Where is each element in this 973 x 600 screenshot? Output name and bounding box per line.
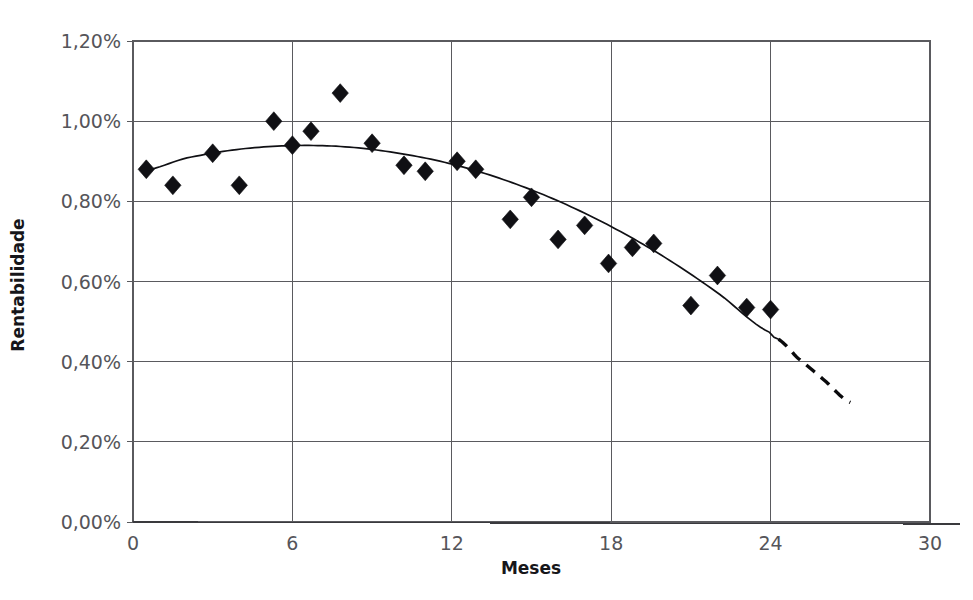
chart-background bbox=[0, 0, 973, 600]
x-tick-label: 12 bbox=[440, 532, 464, 554]
y-tick-label: 0,60% bbox=[61, 271, 121, 293]
x-tick-label: 24 bbox=[759, 532, 783, 554]
y-tick-label: 0,20% bbox=[61, 431, 121, 453]
x-tick-label: 6 bbox=[286, 532, 298, 554]
y-tick-label: 0,00% bbox=[61, 511, 121, 533]
x-tick-label: 0 bbox=[127, 532, 139, 554]
x-tick-label: 18 bbox=[599, 532, 623, 554]
y-tick-label: 0,40% bbox=[61, 351, 121, 373]
y-tick-label: 1,20% bbox=[61, 30, 121, 52]
x-axis-title: Meses bbox=[501, 558, 561, 578]
y-tick-label: 0,80% bbox=[61, 190, 121, 212]
chart-container: 0,00%0,20%0,40%0,60%0,80%1,00%1,20% 0612… bbox=[0, 0, 973, 600]
y-tick-label: 1,00% bbox=[61, 110, 121, 132]
scatter-chart: 0,00%0,20%0,40%0,60%0,80%1,00%1,20% 0612… bbox=[0, 0, 973, 600]
x-tick-label: 30 bbox=[918, 532, 942, 554]
y-axis-title: Rentabilidade bbox=[8, 218, 28, 351]
